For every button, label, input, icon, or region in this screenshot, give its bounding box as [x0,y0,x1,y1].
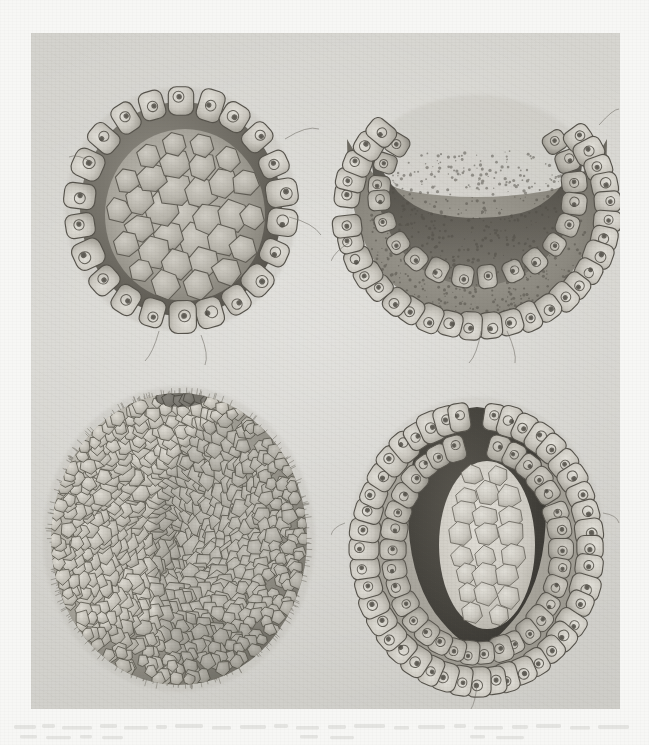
page-sheet [0,0,649,745]
figure-early-gastrula-section [331,43,620,373]
show-through-text [0,709,649,745]
figure-late-gastrula-section [331,373,620,709]
illustration-plate [31,33,620,709]
figure-blastula-surface-view [31,373,331,709]
figure-blastula-section [31,43,331,373]
